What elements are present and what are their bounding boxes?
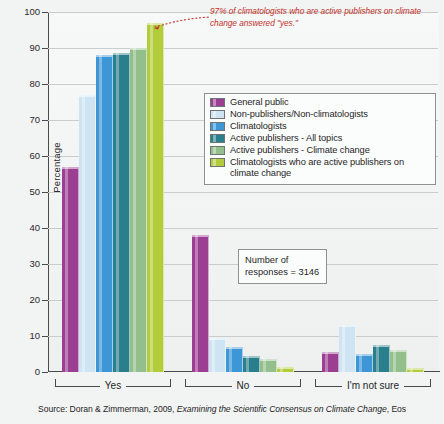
bar-highlight-stripe xyxy=(116,53,118,372)
bar xyxy=(339,325,356,372)
legend-label: Active publishers - All topics xyxy=(230,133,342,144)
y-axis-tick-label: 80 xyxy=(0,79,40,89)
source-suffix: , Eos xyxy=(387,404,406,414)
bar xyxy=(113,53,130,372)
y-axis-tick-label: 60 xyxy=(0,151,40,161)
legend-swatch xyxy=(210,98,225,107)
bar-highlight-cap xyxy=(147,23,163,25)
bar xyxy=(192,235,209,372)
bar-highlight-cap xyxy=(322,352,338,354)
legend-swatch xyxy=(210,110,225,119)
bar-highlight-cap xyxy=(390,350,406,352)
y-axis-tick xyxy=(42,372,48,373)
bar-highlight-cap xyxy=(96,55,112,57)
x-axis-group-label: No xyxy=(185,380,301,391)
bar xyxy=(277,367,294,372)
bar xyxy=(147,23,164,372)
legend-label: Climatologists who are active publishers… xyxy=(230,157,431,179)
source-prefix: Source: Doran & Zimmerman, 2009, xyxy=(38,404,177,414)
bar-highlight-cap xyxy=(243,356,259,358)
bar xyxy=(243,356,260,372)
y-axis-tick-label: 30 xyxy=(0,259,40,269)
bar-highlight-stripe xyxy=(393,350,395,372)
x-axis-group-label: Yes xyxy=(55,380,171,391)
bar-highlight-stripe xyxy=(133,48,135,372)
bar-highlight-stripe xyxy=(82,95,84,372)
bar-highlight-stripe xyxy=(195,235,197,372)
bar-highlight-stripe xyxy=(263,359,265,372)
responses-line-2: responses = 3146 xyxy=(245,266,319,278)
responses-line-1: Number of xyxy=(245,254,319,266)
bar xyxy=(407,368,424,372)
bar-highlight-cap xyxy=(356,354,372,356)
bar xyxy=(390,350,407,372)
bar-highlight-cap xyxy=(130,48,146,50)
y-axis-tick-label: 100 xyxy=(0,7,40,17)
bar-highlight-stripe xyxy=(212,338,214,372)
legend-label: Non-publishers/Non-climatologists xyxy=(230,109,368,120)
bar-highlight-stripe xyxy=(280,367,282,372)
bar-highlight-stripe xyxy=(150,23,152,372)
legend-item[interactable]: Non-publishers/Non-climatologists xyxy=(209,109,431,120)
y-axis-tick-label: 20 xyxy=(0,295,40,305)
chart-legend[interactable]: General publicNon-publishers/Non-climato… xyxy=(204,93,436,185)
bar xyxy=(209,338,226,372)
bar xyxy=(356,354,373,372)
bar-highlight-stripe xyxy=(65,167,67,372)
bar-highlight-cap xyxy=(62,167,78,169)
bar xyxy=(260,359,277,372)
legend-label: General public xyxy=(230,97,289,108)
bar-highlight-stripe xyxy=(229,347,231,372)
legend-item[interactable]: Active publishers - Climate change xyxy=(209,145,431,156)
legend-item[interactable]: Climatologists xyxy=(209,121,431,132)
x-axis-group: Yes xyxy=(55,378,171,396)
x-axis-group: No xyxy=(185,378,301,396)
bar-highlight-stripe xyxy=(410,368,412,372)
bar-highlight-stripe xyxy=(376,345,378,372)
x-axis-group: I'm not sure xyxy=(315,378,431,396)
legend-item[interactable]: Climatologists who are active publishers… xyxy=(209,157,431,179)
bar xyxy=(226,347,243,372)
bar-highlight-cap xyxy=(209,338,225,340)
bar-highlight-stripe xyxy=(246,356,248,372)
bar-highlight-cap xyxy=(339,325,355,327)
bar xyxy=(62,167,79,372)
y-axis-tick-label: 0 xyxy=(0,367,40,377)
bar xyxy=(79,95,96,372)
responses-count-box: Number of responses = 3146 xyxy=(238,249,327,284)
bar-highlight-cap xyxy=(373,345,389,347)
legend-swatch xyxy=(210,146,225,155)
bar-highlight-cap xyxy=(79,95,95,97)
legend-label: Climatologists xyxy=(230,121,286,132)
legend-item[interactable]: General public xyxy=(209,97,431,108)
y-axis-tick-label: 50 xyxy=(0,187,40,197)
chart-annotation: 97% of climatologists who are active pub… xyxy=(210,6,438,29)
legend-item[interactable]: Active publishers - All topics xyxy=(209,133,431,144)
legend-label: Active publishers - Climate change xyxy=(230,145,370,156)
bar-highlight-cap xyxy=(407,368,423,370)
legend-swatch xyxy=(210,122,225,131)
bar-highlight-cap xyxy=(113,53,129,55)
bar-highlight-cap xyxy=(260,359,276,361)
source-title: Examining the Scientific Consensus on Cl… xyxy=(177,404,387,414)
bar-chart: 0102030405060708090100 Percentage YesNoI… xyxy=(0,0,444,424)
y-axis-tick-label: 70 xyxy=(0,115,40,125)
bar-highlight-stripe xyxy=(99,55,101,372)
bar xyxy=(96,55,113,372)
bar-highlight-cap xyxy=(226,347,242,349)
legend-swatch xyxy=(210,158,225,167)
bar-highlight-stripe xyxy=(342,325,344,372)
y-axis-tick-label: 40 xyxy=(0,223,40,233)
legend-swatch xyxy=(210,134,225,143)
bar xyxy=(373,345,390,372)
bar-highlight-cap xyxy=(192,235,208,237)
y-axis-tick-label: 10 xyxy=(0,331,40,341)
y-axis-tick-label: 90 xyxy=(0,43,40,53)
bar-highlight-stripe xyxy=(359,354,361,372)
bars-layer xyxy=(48,12,438,372)
bar xyxy=(322,352,339,372)
x-axis-group-label: I'm not sure xyxy=(315,380,431,391)
source-citation: Source: Doran & Zimmerman, 2009, Examini… xyxy=(38,404,406,414)
bar-highlight-stripe xyxy=(325,352,327,372)
bar-highlight-cap xyxy=(277,367,293,369)
